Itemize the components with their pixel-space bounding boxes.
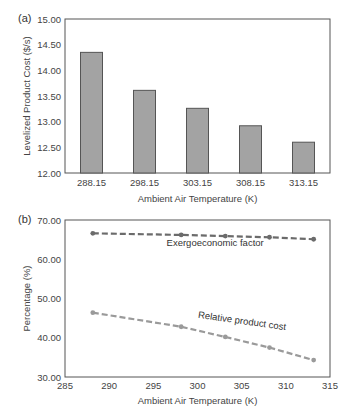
- x-tick-label: 285: [57, 380, 73, 391]
- y-axis-title: Percentage (%): [21, 265, 32, 331]
- x-tick-label: 295: [145, 380, 161, 391]
- x-tick-label: 313.15: [289, 177, 318, 188]
- y-tick-label: 14.50: [37, 39, 61, 50]
- panel-b: (b) 30.0040.0050.0060.0070.0028529029530…: [0, 210, 351, 420]
- data-point: [179, 324, 184, 329]
- y-tick-label: 60.00: [37, 254, 61, 265]
- x-tick-label: 290: [101, 380, 117, 391]
- data-point: [223, 335, 228, 340]
- y-tick-label: 15.00: [37, 14, 61, 25]
- bar-chart-levelized-cost: 12.0012.5013.0013.5014.0014.5015.00288.1…: [0, 0, 351, 210]
- x-tick-label: 298.15: [130, 177, 159, 188]
- data-point: [311, 237, 316, 242]
- data-point: [267, 235, 272, 240]
- panel-a: (a) 12.0012.5013.0013.5014.0014.5015.002…: [0, 0, 351, 210]
- data-point: [90, 310, 95, 315]
- y-tick-label: 13.50: [37, 91, 61, 102]
- x-tick-label: 303.15: [183, 177, 212, 188]
- bar-303.15: [187, 108, 209, 173]
- x-tick-label: 288.15: [77, 177, 106, 188]
- y-tick-label: 14.00: [37, 65, 61, 76]
- series-annotation: Relative product cost: [197, 309, 287, 332]
- data-point: [90, 231, 95, 236]
- x-tick-label: 308.15: [236, 177, 265, 188]
- bar-308.15: [240, 126, 262, 173]
- bar-313.15: [293, 142, 315, 173]
- series-annotation: Exergoeconomic factor: [167, 237, 264, 248]
- bar-298.15: [134, 90, 156, 173]
- bar-288.15: [81, 52, 103, 173]
- y-tick-label: 13.00: [37, 116, 61, 127]
- x-tick-label: 300: [190, 380, 206, 391]
- y-tick-label: 70.00: [37, 215, 61, 226]
- line-chart-percentage: 30.0040.0050.0060.0070.00285290295300305…: [0, 210, 351, 420]
- x-axis-title: Ambient Air Temperature (K): [138, 193, 258, 204]
- x-tick-label: 310: [278, 380, 294, 391]
- data-point: [311, 358, 316, 363]
- x-axis-title: Ambient Air Temperature (K): [138, 395, 258, 406]
- y-tick-label: 12.00: [37, 168, 61, 179]
- y-tick-label: 40.00: [37, 332, 61, 343]
- y-tick-label: 50.00: [37, 293, 61, 304]
- y-tick-label: 12.50: [37, 142, 61, 153]
- x-tick-label: 315: [322, 380, 338, 391]
- x-tick-label: 305: [234, 380, 250, 391]
- y-axis-title: Levelized Product Cost ($/s): [21, 36, 32, 155]
- data-point: [267, 345, 272, 350]
